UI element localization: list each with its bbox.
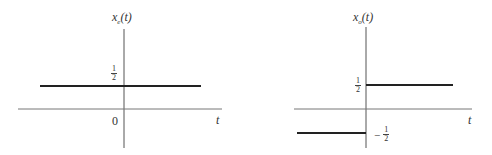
left-level-den: 2	[112, 74, 116, 82]
diagram-canvas	[0, 0, 492, 155]
right-lower-fraction: 1 2	[383, 126, 389, 143]
right-upper-num: 1	[356, 77, 360, 85]
left-x-axis-label: t	[216, 113, 219, 128]
right-lower-label: − 1 2	[374, 126, 389, 143]
right-lower-sign: −	[374, 129, 380, 141]
right-lower-den: 2	[384, 135, 388, 143]
right-y-axis-label: xo(t)	[353, 10, 373, 26]
left-y-label-arg: (t)	[120, 10, 131, 24]
right-lower-num: 1	[384, 126, 388, 134]
right-upper-label: 1 2	[355, 77, 361, 94]
left-origin-label: 0	[112, 114, 118, 129]
left-y-axis-label: xe(t)	[112, 10, 132, 26]
left-level-num: 1	[112, 65, 116, 73]
right-x-axis-label: t	[468, 113, 471, 128]
left-level-label: 1 2	[111, 65, 117, 82]
right-upper-den: 2	[356, 86, 360, 94]
right-y-label-arg: (t)	[362, 10, 373, 24]
